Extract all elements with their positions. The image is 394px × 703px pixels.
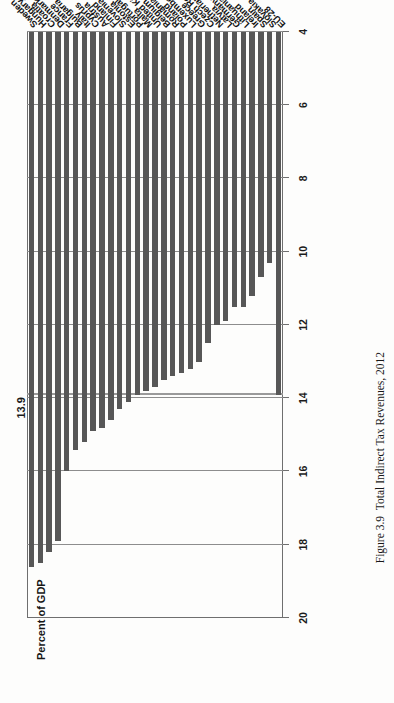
bar-fill xyxy=(82,32,87,442)
bar-fill xyxy=(258,32,263,277)
chart-stage: Percent of GDP 201816141210864 13.9 Swed… xyxy=(17,28,317,676)
bar-latvia xyxy=(223,32,228,321)
bar-fill xyxy=(38,32,43,563)
bar-fill xyxy=(223,32,228,321)
bar-denmark xyxy=(55,32,60,541)
bar-fill xyxy=(73,32,78,450)
bar-fill xyxy=(29,32,34,567)
bar-fill xyxy=(232,32,237,307)
bar-lithuania xyxy=(241,32,246,307)
bar-italy xyxy=(82,32,87,442)
bar-cyprus xyxy=(90,32,95,431)
bar-germany xyxy=(232,32,237,307)
bar-ireland xyxy=(249,32,254,296)
bar-fill xyxy=(108,32,113,420)
bar-fill xyxy=(143,32,148,391)
bar-austria xyxy=(99,32,104,428)
bar-united-kingdom xyxy=(152,32,157,387)
figure-title: Total Indirect Tax Revenues, 2012 xyxy=(374,352,386,510)
bar-romania xyxy=(170,32,175,376)
figure-number: Figure 3.9 xyxy=(374,515,386,562)
bar-fill xyxy=(135,32,140,395)
bar-poland xyxy=(179,32,184,373)
bar-france xyxy=(64,32,69,472)
bar-sweden xyxy=(29,32,34,567)
figure-caption: Figure 3.9 Total Indirect Tax Revenues, … xyxy=(374,352,386,563)
bar-fill xyxy=(126,32,131,402)
bar-greece xyxy=(196,32,201,362)
bar-series: SwedenHungaryCroatiaDenmarkFranceBulgari… xyxy=(27,32,283,618)
bar-portugal xyxy=(135,32,140,395)
bar-fill xyxy=(170,32,175,376)
bar-fill xyxy=(161,32,166,380)
bar-fill xyxy=(267,32,272,263)
bar-croatia xyxy=(46,32,51,552)
bar-spain xyxy=(258,32,263,277)
bar-slovenia xyxy=(117,32,122,409)
bar-estonia xyxy=(126,32,131,402)
bar-malta xyxy=(143,32,148,391)
bar-fill xyxy=(99,32,104,428)
bar-slovakia xyxy=(267,32,272,263)
bar-belgium xyxy=(161,32,166,380)
bar-fill xyxy=(214,32,219,325)
category-labels xyxy=(283,32,317,618)
bar-chart: Percent of GDP 201816141210864 13.9 Swed… xyxy=(17,28,317,676)
bar-fill xyxy=(276,32,281,395)
bar-fill xyxy=(117,32,122,409)
bar-bulgaria xyxy=(73,32,78,450)
bar-luxembourg xyxy=(188,32,193,369)
reference-line-label: 13.9 xyxy=(15,397,27,418)
bar-fill xyxy=(196,32,201,362)
bar-fill xyxy=(205,32,210,343)
bar-fill xyxy=(90,32,95,431)
bar-fill xyxy=(241,32,246,307)
bar-fill xyxy=(152,32,157,387)
bar-fill xyxy=(179,32,184,373)
bar-fill xyxy=(55,32,60,541)
bar-fill xyxy=(46,32,51,552)
bar-fill xyxy=(249,32,254,296)
bar-hungary xyxy=(38,32,43,563)
bar-eu-28 xyxy=(276,32,281,395)
bar-finland xyxy=(108,32,113,420)
bar-czech-republic xyxy=(205,32,210,343)
bar-netherlands xyxy=(214,32,219,325)
bar-fill xyxy=(64,32,69,472)
figure-page: Percent of GDP 201816141210864 13.9 Swed… xyxy=(0,0,394,703)
bar-fill xyxy=(188,32,193,369)
